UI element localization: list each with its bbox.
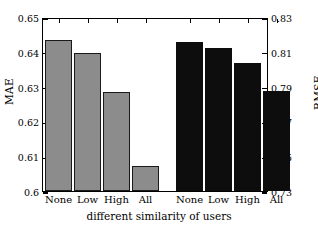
y-axis-left-tick-label: 0.63: [18, 84, 39, 94]
top-axis-tick: [190, 19, 191, 23]
y-axis-left-tick: [43, 18, 48, 19]
top-axis-tick: [146, 19, 147, 23]
bar-mae-all: [132, 166, 159, 191]
y-axis-right-tick: [262, 88, 267, 89]
top-axis-tick: [59, 19, 60, 23]
top-axis-tick: [219, 19, 220, 23]
y-axis-left-tick-label: 0.64: [18, 49, 39, 59]
y-axis-left-tick-label: 0.65: [18, 14, 39, 24]
y-axis-left-tick-label: 0.62: [18, 118, 39, 128]
bar-rmse-all: [263, 91, 290, 191]
bar-rmse-none: [176, 42, 203, 191]
y-axis-right-tick-label: 0.81: [271, 49, 292, 59]
bar-mae-low: [74, 53, 101, 192]
top-axis-tick: [277, 19, 278, 23]
y-axis-left-title: MAE: [3, 78, 15, 105]
y-axis-right-title: RMSE: [312, 75, 318, 110]
bar-rmse-high: [234, 63, 261, 191]
top-axis-tick: [248, 19, 249, 23]
bar-rmse-low: [205, 48, 232, 191]
x-axis-title: different similarity of users: [0, 210, 318, 222]
y-axis-right-tick: [262, 18, 267, 19]
x-axis-tick-label: All: [121, 195, 171, 205]
y-axis-right-tick: [262, 192, 267, 193]
y-axis-right-tick: [262, 53, 267, 54]
top-axis-tick: [88, 19, 89, 23]
bar-mae-high: [103, 92, 130, 191]
bar-mae-none: [45, 40, 72, 191]
top-axis-tick: [117, 19, 118, 23]
y-axis-right-tick-label: 0.83: [271, 14, 292, 24]
x-axis-tick-label: All: [252, 195, 302, 205]
figure: MAE RMSE different similarity of users 0…: [0, 0, 318, 234]
plot-area: 0.60.610.620.630.640.65 0.730.750.770.79…: [42, 18, 268, 192]
y-axis-left-tick-label: 0.61: [18, 153, 39, 163]
